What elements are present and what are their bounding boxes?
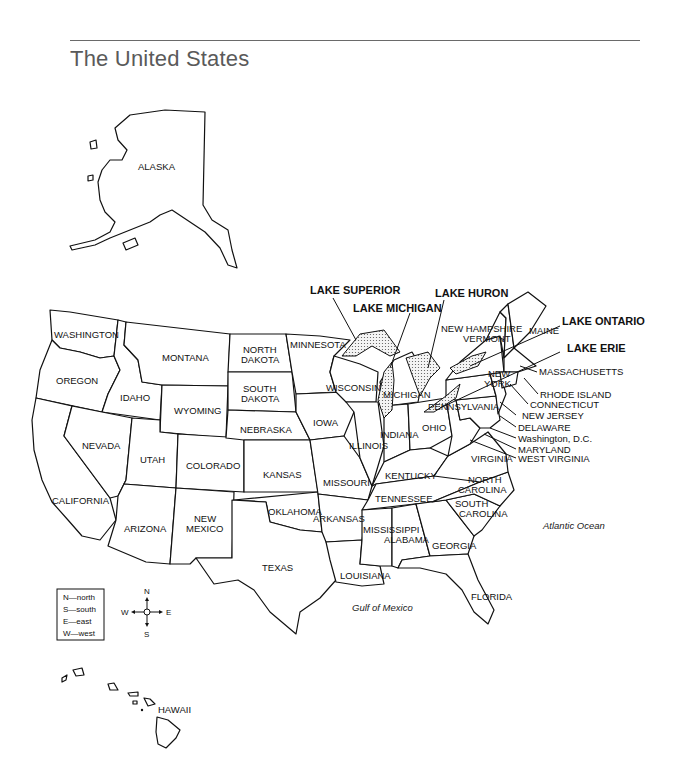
- hawaii-island: [73, 668, 84, 676]
- label-massachusetts: MASSACHUSETTS: [539, 366, 623, 377]
- label-washington: WASHINGTON: [54, 329, 119, 340]
- label-oregon: OREGON: [56, 375, 98, 386]
- hawaii-island: [108, 683, 118, 690]
- label-colorado: COLORADO: [186, 460, 240, 471]
- label-north-carolina-2: CAROLINA: [458, 484, 507, 495]
- lake-superior: [342, 330, 400, 356]
- legend-item: E—east: [63, 617, 92, 626]
- label-georgia: GEORGIA: [432, 540, 477, 551]
- label-tennessee: TENNESSEE: [375, 493, 433, 504]
- label-kentucky: KENTUCKY: [385, 470, 437, 481]
- label-new-jersey: NEW JERSEY: [522, 410, 584, 421]
- label-lake-superior: LAKE SUPERIOR: [310, 284, 401, 296]
- alaska: ALASKA: [70, 110, 237, 268]
- label-wyoming: WYOMING: [174, 405, 222, 416]
- label-new-mexico-2: MEXICO: [186, 523, 223, 534]
- hawaii-island: [62, 675, 67, 682]
- label-maine: MAINE: [529, 325, 559, 336]
- label-louisiana: LOUISIANA: [340, 570, 391, 581]
- label-montana: MONTANA: [162, 352, 209, 363]
- label-ohio: OHIO: [422, 422, 446, 433]
- label-washington-dc: Washington, D.C.: [518, 433, 592, 444]
- alaska-island: [88, 175, 93, 181]
- label-utah: UTAH: [140, 454, 165, 465]
- state-alaska: [70, 110, 237, 268]
- us-map: ALASKA: [0, 0, 679, 773]
- hawaii: HAWAII: [62, 668, 191, 748]
- label-missouri: MISSOURI: [323, 477, 370, 488]
- direction-legend: N—north S—south E—east W—west: [57, 589, 104, 640]
- label-idaho: IDAHO: [120, 392, 150, 403]
- label-minnesota: MINNESOTA: [290, 339, 346, 350]
- label-alabama: ALABAMA: [384, 534, 430, 545]
- label-illinois: ILLINOIS: [349, 440, 388, 451]
- hawaii-big-island: [156, 717, 180, 748]
- label-arkansas: ARKANSAS: [313, 513, 365, 524]
- label-pennsylvania: PENNSYLVANIA: [428, 401, 500, 412]
- label-maryland: MARYLAND: [518, 444, 571, 455]
- hawaii-island: [133, 701, 137, 704]
- label-lake-michigan: LAKE MICHIGAN: [353, 302, 442, 314]
- legend-item: N—north: [63, 593, 95, 602]
- label-south-dakota-2: DAKOTA: [241, 393, 280, 404]
- label-florida: FLORIDA: [471, 591, 513, 602]
- label-atlantic-ocean: Atlantic Ocean: [542, 520, 605, 531]
- label-connecticut: CONNECTICUT: [530, 399, 599, 410]
- label-new-york-2: YORK: [484, 378, 512, 389]
- compass-w: W: [121, 608, 129, 617]
- alaska-island: [90, 140, 97, 149]
- legend-item: W—west: [63, 629, 96, 638]
- label-north-dakota-2: DAKOTA: [241, 354, 280, 365]
- label-delaware: DELAWARE: [518, 422, 571, 433]
- label-kansas: KANSAS: [263, 469, 302, 480]
- compass-n: N: [144, 587, 150, 596]
- compass-e: E: [166, 608, 171, 617]
- label-south-carolina-2: CAROLINA: [459, 508, 508, 519]
- label-nebraska: NEBRASKA: [240, 424, 292, 435]
- label-new-hampshire: NEW HAMPSHIRE: [441, 323, 522, 334]
- compass-s: S: [144, 630, 149, 639]
- label-alaska: ALASKA: [138, 161, 176, 172]
- compass-rose-icon: N S W E: [121, 587, 171, 639]
- label-nevada: NEVADA: [82, 440, 121, 451]
- label-rhode-island: RHODE ISLAND: [540, 389, 611, 400]
- state-florida: [398, 554, 494, 624]
- label-lake-ontario: LAKE ONTARIO: [562, 315, 645, 327]
- label-michigan: MICHIGAN: [383, 389, 431, 400]
- label-iowa: IOWA: [313, 417, 339, 428]
- label-california: CALIFORNIA: [52, 495, 110, 506]
- hawaii-island: [128, 692, 138, 696]
- label-hawaii: HAWAII: [158, 704, 191, 715]
- label-indiana: INDIANA: [380, 429, 419, 440]
- label-gulf-of-mexico: Gulf of Mexico: [352, 602, 413, 613]
- state-kansas: [244, 440, 318, 492]
- state-maine: [508, 292, 546, 348]
- label-texas: TEXAS: [262, 562, 293, 573]
- alaska-island: [123, 238, 138, 250]
- legend-item: S—south: [63, 605, 96, 614]
- label-arizona: ARIZONA: [124, 523, 167, 534]
- label-lake-huron: LAKE HURON: [435, 287, 508, 299]
- label-vermont: VERMONT: [463, 333, 511, 344]
- label-wisconsin: WISCONSIN: [326, 382, 381, 393]
- hawaii-island: [144, 698, 155, 706]
- label-lake-erie: LAKE ERIE: [567, 342, 626, 354]
